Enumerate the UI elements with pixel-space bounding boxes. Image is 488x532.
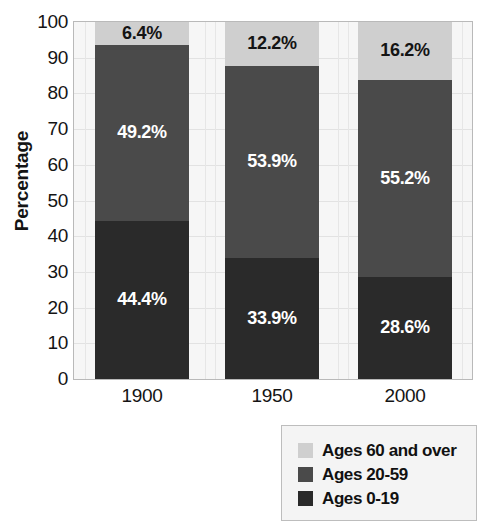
gridline-vertical <box>85 22 86 379</box>
legend-swatch-icon <box>298 491 313 506</box>
x-axis-tick-label-1950: 1950 <box>225 385 319 407</box>
bar-segment-1900-ages-0-19[interactable]: 44.4% <box>95 221 189 380</box>
legend-label: Ages 0-19 <box>322 489 399 509</box>
y-axis-tick-label: 30 <box>22 261 68 283</box>
legend: Ages 60 and overAges 20-59Ages 0-19 <box>281 425 477 521</box>
legend-label: Ages 20-59 <box>322 465 408 485</box>
y-axis-tick-label: 70 <box>22 118 68 140</box>
y-axis-tick-labels: 1009080706050403020100 <box>22 0 68 532</box>
bar-value-label: 33.9% <box>247 308 297 329</box>
bar-value-label: 12.2% <box>247 33 297 54</box>
bar-value-label: 6.4% <box>122 23 162 44</box>
y-axis-tick-label: 0 <box>22 368 68 390</box>
y-axis-tick-label: 90 <box>22 47 68 69</box>
y-axis-tick-label: 60 <box>22 154 68 176</box>
bar-segment-2000-ages-60-and-over[interactable]: 16.2% <box>358 22 452 80</box>
bar-value-label: 49.2% <box>117 122 167 143</box>
y-axis-tick-label: 20 <box>22 297 68 319</box>
legend-swatch-icon <box>298 443 313 458</box>
y-axis-tick-label: 50 <box>22 190 68 212</box>
bar-value-label: 16.2% <box>380 40 430 61</box>
bar-value-label: 44.4% <box>117 289 167 310</box>
y-axis-tick-label: 100 <box>22 11 68 33</box>
plot-area: 6.4%49.2%44.4%12.2%53.9%33.9%16.2%55.2%2… <box>73 21 473 380</box>
bar-segment-1950-ages-60-and-over[interactable]: 12.2% <box>225 22 319 66</box>
bar-1900[interactable]: 6.4%49.2%44.4% <box>95 22 189 379</box>
bar-segment-1950-ages-20-59[interactable]: 53.9% <box>225 66 319 258</box>
bar-segment-2000-ages-0-19[interactable]: 28.6% <box>358 277 452 379</box>
legend-item[interactable]: Ages 60 and over <box>298 440 476 461</box>
bar-segment-1900-ages-20-59[interactable]: 49.2% <box>95 45 189 221</box>
y-axis-tick-label: 80 <box>22 82 68 104</box>
legend-item[interactable]: Ages 20-59 <box>298 464 476 485</box>
stacked-bar-chart: Percentage 1009080706050403020100 6.4%49… <box>0 0 488 532</box>
legend-swatch-icon <box>298 467 313 482</box>
bar-value-label: 55.2% <box>380 168 430 189</box>
bar-1950[interactable]: 12.2%53.9%33.9% <box>225 22 319 379</box>
gridline-vertical <box>462 22 463 379</box>
gridline-vertical <box>205 22 206 379</box>
bar-segment-1900-ages-60-and-over[interactable]: 6.4% <box>95 22 189 45</box>
y-axis-tick-label: 40 <box>22 225 68 247</box>
y-axis-tick-label: 10 <box>22 332 68 354</box>
bar-segment-2000-ages-20-59[interactable]: 55.2% <box>358 80 452 277</box>
bar-segment-1950-ages-0-19[interactable]: 33.9% <box>225 258 319 379</box>
gridline-vertical <box>348 22 349 379</box>
legend-label: Ages 60 and over <box>322 441 456 461</box>
x-axis-tick-label-2000: 2000 <box>358 385 452 407</box>
gridline-vertical <box>338 22 339 379</box>
bar-value-label: 53.9% <box>247 151 297 172</box>
legend-item[interactable]: Ages 0-19 <box>298 488 476 509</box>
gridline-vertical <box>215 22 216 379</box>
bar-2000[interactable]: 16.2%55.2%28.6% <box>358 22 452 379</box>
x-axis-tick-label-1900: 1900 <box>95 385 189 407</box>
bar-value-label: 28.6% <box>380 317 430 338</box>
